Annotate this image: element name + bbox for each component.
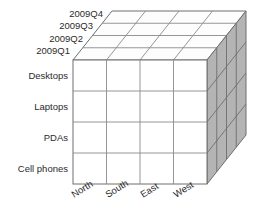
item-label-pdas: PDAs [44,132,69,143]
time-label-2009q3: 2009Q3 [59,20,93,31]
time-label-2009q1: 2009Q1 [36,45,70,56]
item-label-cell-phones: Cell phones [18,163,68,174]
item-axis-labels: Desktops Laptops PDAs Cell phones [18,70,68,174]
data-cube-figure: 2009Q4 2009Q3 2009Q2 2009Q1 Desktops Lap… [0,0,258,221]
time-label-2009q4: 2009Q4 [69,8,103,19]
item-label-laptops: Laptops [34,101,68,112]
item-label-desktops: Desktops [28,70,68,81]
time-label-2009q2: 2009Q2 [49,33,83,44]
cube-diagram: 2009Q4 2009Q3 2009Q2 2009Q1 Desktops Lap… [0,0,258,221]
cube-front-face [73,60,207,184]
